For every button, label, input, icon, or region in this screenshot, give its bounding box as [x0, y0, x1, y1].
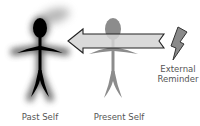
external-reminder-line1: External	[156, 64, 200, 74]
past-self-label: Past Self	[12, 112, 68, 122]
external-reminder-label: External Reminder	[156, 64, 200, 84]
present-self-label: Present Self	[88, 112, 150, 122]
past-self-figure	[17, 18, 63, 97]
past-present-self-diagram	[0, 0, 200, 126]
lightning-bolt-icon	[171, 27, 187, 60]
external-reminder-line2: Reminder	[156, 74, 200, 84]
present-self-figure	[89, 18, 138, 98]
